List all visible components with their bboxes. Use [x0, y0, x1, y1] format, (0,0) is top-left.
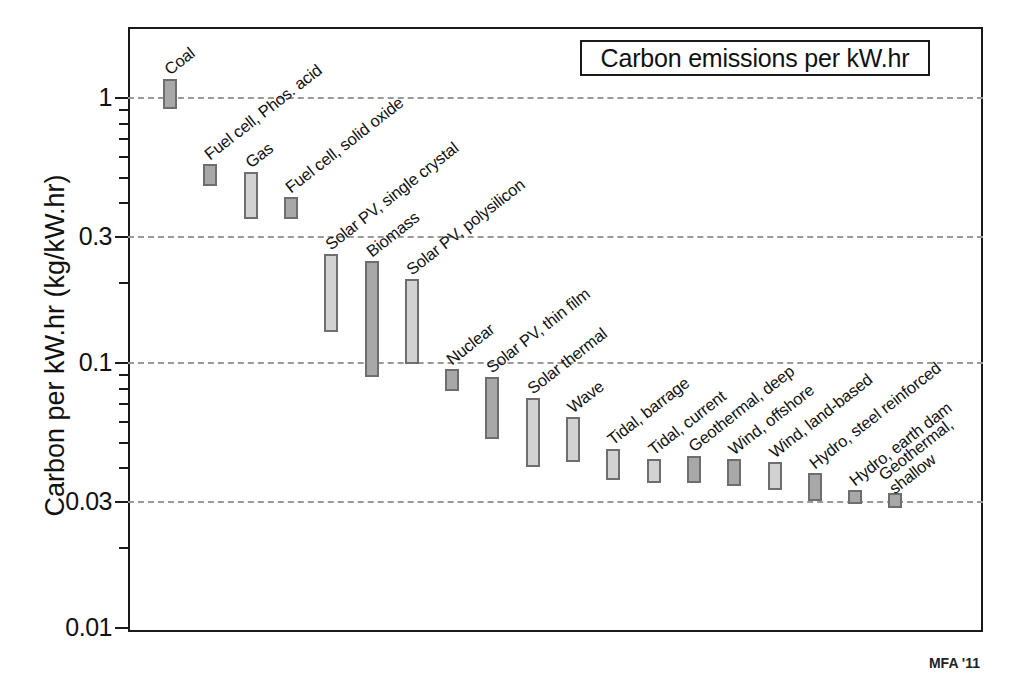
carbon-emissions-chart: 10.30.10.030.01 Carbon per kW.hr (kg/kW.… — [0, 0, 1010, 685]
tick-minor — [119, 421, 128, 423]
tick-minor — [119, 138, 128, 140]
gridline-1 — [128, 97, 983, 99]
tick-minor — [119, 177, 128, 179]
tick-minor — [119, 467, 128, 469]
tick-major-1 — [115, 97, 128, 99]
tick-major-0-01 — [115, 627, 128, 629]
bar-hydro-steel-reinforced — [808, 473, 822, 500]
bar-tidal-barrage — [606, 449, 620, 480]
tick-minor — [119, 202, 128, 204]
bar-fuel-cell-phos-acid — [203, 164, 217, 187]
bar-solar-pv-polysilicon — [405, 279, 419, 364]
tick-minor — [119, 282, 128, 284]
bar-fuel-cell-solid-oxide — [284, 197, 298, 220]
bar-hydro-earth-dam — [848, 490, 862, 505]
tick-label-0-01: 0.01 — [0, 613, 112, 642]
bar-biomass — [365, 261, 379, 376]
bar-nuclear — [445, 369, 459, 390]
credit-text: MFA '11 — [929, 655, 980, 671]
tick-minor — [119, 123, 128, 125]
bar-geothermal-deep — [687, 456, 701, 482]
tick-minor — [119, 442, 128, 444]
bar-tidal-current — [647, 459, 661, 483]
tick-minor — [119, 156, 128, 158]
tick-minor — [119, 403, 128, 405]
tick-major-0-03 — [115, 501, 128, 503]
tick-minor — [119, 109, 128, 111]
bar-wave — [566, 417, 580, 462]
bar-wind-land-based — [768, 462, 782, 490]
tick-label-1: 1 — [0, 83, 112, 112]
bar-gas — [244, 172, 258, 219]
tick-minor — [119, 388, 128, 390]
tick-major-0-3 — [115, 236, 128, 238]
bar-wind-offshore — [727, 459, 741, 486]
tick-minor — [119, 547, 128, 549]
bar-solar-pv-single-crystal — [324, 254, 338, 332]
y-axis-title: Carbon per kW.hr (kg/kW.hr) — [40, 136, 71, 556]
tick-major-0-1 — [115, 362, 128, 364]
gridline-0-3 — [128, 236, 983, 238]
chart-title-box: Carbon emissions per kW.hr — [580, 40, 930, 76]
bar-coal — [163, 79, 177, 109]
bar-solar-pv-thin-film — [485, 377, 499, 440]
tick-minor — [119, 374, 128, 376]
bar-solar-thermal — [526, 398, 540, 467]
